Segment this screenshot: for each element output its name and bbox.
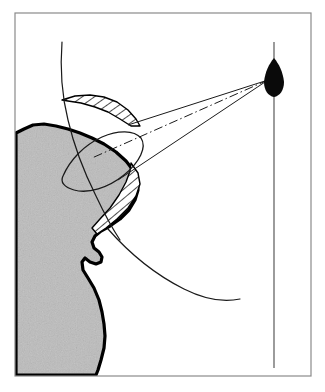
radar-coverage-diagram xyxy=(0,0,325,392)
figure-root xyxy=(0,0,325,392)
